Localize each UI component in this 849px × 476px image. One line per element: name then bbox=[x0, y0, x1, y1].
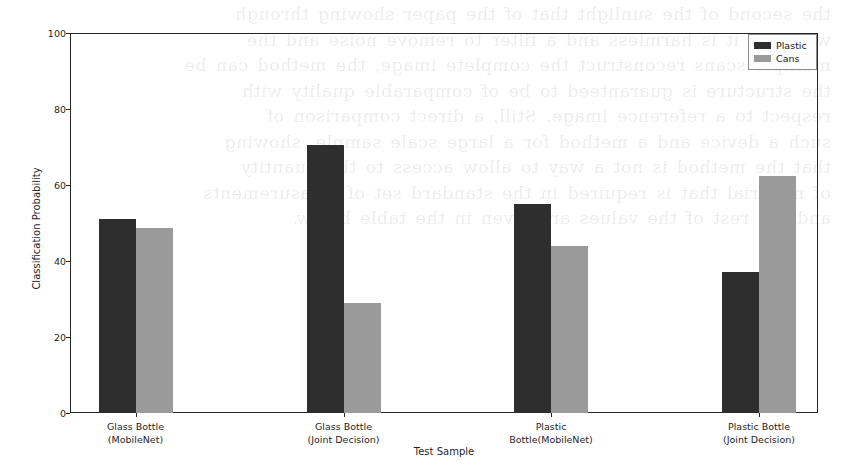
legend-swatch-icon bbox=[754, 42, 771, 49]
legend-swatch-icon bbox=[754, 55, 771, 62]
y-tick-mark bbox=[66, 337, 70, 338]
x-tick-label-line: Glass Bottle bbox=[46, 421, 226, 434]
x-tick-label-line: Bottle(MobileNet) bbox=[461, 434, 641, 447]
y-axis-label: Classification Probability bbox=[31, 129, 42, 329]
x-tick-label: Glass Bottle(Joint Decision) bbox=[254, 421, 434, 446]
y-tick-mark bbox=[66, 109, 70, 110]
bar-plastic-0 bbox=[99, 219, 136, 413]
x-tick-mark bbox=[344, 413, 345, 417]
x-tick-label-line: (Joint Decision) bbox=[669, 434, 849, 447]
chart-legend: PlasticCans bbox=[748, 34, 817, 70]
bar-chart-figure: 020406080100 Glass Bottle(MobileNet)Glas… bbox=[0, 0, 849, 476]
y-tick-label: 0 bbox=[0, 408, 66, 419]
legend-item: Cans bbox=[754, 52, 811, 65]
x-tick-label-line: Plastic Bottle bbox=[669, 421, 849, 434]
x-tick-mark bbox=[759, 413, 760, 417]
x-tick-label: Plastic Bottle(Joint Decision) bbox=[669, 421, 849, 446]
plot-area bbox=[70, 33, 818, 413]
bar-cans-3 bbox=[759, 176, 796, 414]
legend-item: Plastic bbox=[754, 39, 811, 52]
legend-label: Cans bbox=[776, 53, 799, 64]
y-tick-label: 100 bbox=[0, 28, 66, 39]
y-tick-mark bbox=[66, 185, 70, 186]
legend-label: Plastic bbox=[776, 40, 807, 51]
x-axis-label: Test Sample bbox=[344, 446, 544, 457]
bar-cans-0 bbox=[136, 228, 173, 413]
y-tick-mark bbox=[66, 413, 70, 414]
x-tick-mark bbox=[136, 413, 137, 417]
y-tick-mark bbox=[66, 33, 70, 34]
x-tick-label-line: Glass Bottle bbox=[254, 421, 434, 434]
bar-plastic-1 bbox=[307, 145, 344, 413]
x-tick-label-line: (MobileNet) bbox=[46, 434, 226, 447]
x-tick-label-line: (Joint Decision) bbox=[254, 434, 434, 447]
bar-plastic-3 bbox=[722, 272, 759, 413]
x-tick-label-line: Plastic bbox=[461, 421, 641, 434]
y-tick-label: 20 bbox=[0, 332, 66, 343]
y-tick-mark bbox=[66, 261, 70, 262]
bar-cans-2 bbox=[551, 246, 588, 413]
x-tick-mark bbox=[551, 413, 552, 417]
bar-plastic-2 bbox=[514, 204, 551, 413]
y-tick-label: 80 bbox=[0, 104, 66, 115]
bar-cans-1 bbox=[344, 303, 381, 413]
x-tick-label: Glass Bottle(MobileNet) bbox=[46, 421, 226, 446]
x-tick-label: PlasticBottle(MobileNet) bbox=[461, 421, 641, 446]
